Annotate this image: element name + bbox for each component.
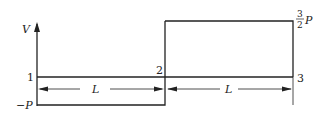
point-label-3: 3 xyxy=(297,72,304,85)
dimension-label-2: L xyxy=(224,83,232,96)
level-label-positive-numerator: 3 xyxy=(297,9,303,19)
dim-arrow-right-icon xyxy=(154,87,164,92)
axis-label-v: V xyxy=(22,23,31,36)
level-label-negative: −P xyxy=(16,99,33,112)
v-axis-arrow-icon xyxy=(34,22,40,32)
dimension-label-1: L xyxy=(91,83,99,96)
dim-arrow-left-icon xyxy=(167,87,177,92)
shear-diagram: V L L 1 2 3 −P 3 2 P xyxy=(0,0,328,116)
positive-shear-segment xyxy=(165,21,293,77)
level-label-positive-denominator: 2 xyxy=(297,20,303,30)
level-label-positive-symbol: P xyxy=(304,14,313,27)
dim-arrow-left-icon xyxy=(38,87,48,92)
point-label-1: 1 xyxy=(27,71,34,84)
negative-shear-segment xyxy=(37,21,165,105)
point-label-2: 2 xyxy=(156,64,163,77)
dim-arrow-right-icon xyxy=(282,87,292,92)
